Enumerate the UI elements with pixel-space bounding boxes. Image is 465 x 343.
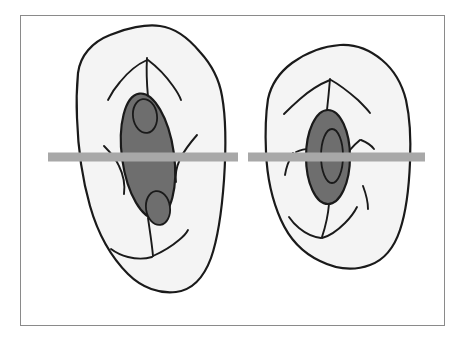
section-plane-bar <box>48 153 425 162</box>
section-plane-bar-right-segment <box>248 153 425 162</box>
figure-canvas: Two cells in cross-section with sectioni… <box>0 0 465 343</box>
cell-diagram <box>0 0 465 343</box>
section-plane-bar-left-segment <box>48 153 238 162</box>
